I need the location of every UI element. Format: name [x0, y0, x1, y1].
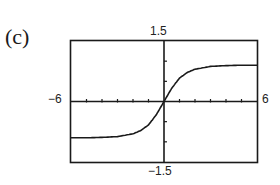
graph-window — [0, 0, 280, 185]
